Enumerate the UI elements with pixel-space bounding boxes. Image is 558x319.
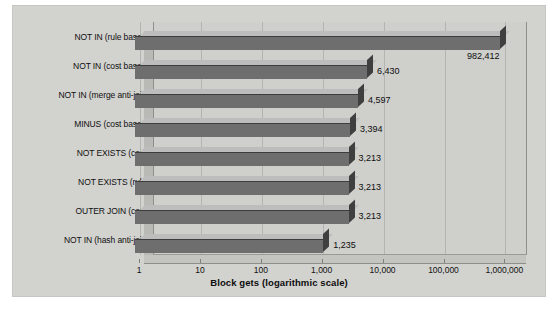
value-label: 3,213 bbox=[359, 211, 382, 221]
value-label: 6,430 bbox=[377, 66, 400, 76]
gridline bbox=[445, 22, 446, 255]
x-tick-label: 100 bbox=[231, 265, 291, 275]
x-tick-label: 1 bbox=[109, 265, 169, 275]
bar bbox=[135, 147, 349, 160]
bar bbox=[135, 118, 350, 131]
x-tick-label: 100,000 bbox=[414, 265, 474, 275]
bar bbox=[135, 176, 349, 189]
bar-front-face bbox=[135, 210, 349, 224]
category-labels: NOT IN (rule based)NOT IN (cost based)NO… bbox=[13, 6, 149, 296]
x-tick-label: 10 bbox=[170, 265, 230, 275]
bar-front-face bbox=[135, 123, 350, 137]
category-label: NOT EXISTS (rule) bbox=[19, 177, 149, 187]
value-label: 3,213 bbox=[359, 153, 382, 163]
bar-front-face bbox=[135, 36, 500, 50]
category-label: NOT EXISTS (cost) bbox=[19, 148, 149, 158]
bar bbox=[135, 89, 358, 102]
tick-mark bbox=[261, 259, 262, 263]
tick-mark bbox=[139, 259, 140, 263]
category-label: NOT IN (cost based) bbox=[19, 61, 149, 71]
gridline bbox=[384, 22, 385, 255]
bar-front-face bbox=[135, 181, 349, 195]
tick-mark bbox=[444, 259, 445, 263]
chart-panel: NOT IN (rule based)NOT IN (cost based)NO… bbox=[13, 6, 545, 296]
x-axis-line-inner bbox=[153, 254, 526, 255]
bar bbox=[135, 205, 349, 218]
value-label: 4,597 bbox=[368, 95, 391, 105]
bar bbox=[135, 234, 323, 247]
category-label: OUTER JOIN (cost) bbox=[19, 206, 149, 216]
bar-front-face bbox=[135, 239, 323, 253]
tick-mark bbox=[504, 259, 505, 263]
value-label: 3,394 bbox=[360, 124, 383, 134]
category-label: NOT IN (merge anti-join) bbox=[19, 90, 149, 100]
value-label: 3,213 bbox=[359, 182, 382, 192]
tick-mark bbox=[200, 259, 201, 263]
value-label: 982,412 bbox=[467, 51, 500, 61]
x-tick-label: 10,000 bbox=[353, 265, 413, 275]
chart-page: NOT IN (rule based)NOT IN (cost based)NO… bbox=[0, 0, 558, 319]
bar-front-face bbox=[135, 152, 349, 166]
bar-front-face bbox=[135, 65, 367, 79]
category-label: NOT IN (hash anti-join) bbox=[19, 235, 149, 245]
value-label: 1,235 bbox=[333, 240, 356, 250]
bar bbox=[135, 31, 500, 44]
tick-mark bbox=[383, 259, 384, 263]
category-label: MINUS (cost based) bbox=[19, 119, 149, 129]
x-tick-label: 1,000 bbox=[292, 265, 352, 275]
bar bbox=[135, 60, 367, 73]
x-tick-label: 1,000,000 bbox=[474, 265, 534, 275]
x-axis-title: Block gets (logarithmic scale) bbox=[13, 277, 545, 288]
x-axis-line bbox=[144, 263, 526, 264]
bar-front-face bbox=[135, 94, 358, 108]
category-label: NOT IN (rule based) bbox=[19, 32, 149, 42]
gridline bbox=[505, 22, 506, 255]
tick-mark bbox=[322, 259, 323, 263]
